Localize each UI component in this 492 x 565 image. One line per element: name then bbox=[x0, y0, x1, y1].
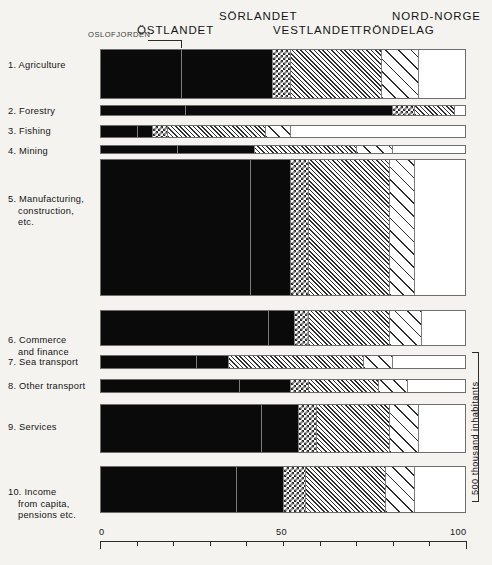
bar-segment-vestlandet bbox=[414, 106, 454, 115]
bar-segment-nordnorge bbox=[392, 146, 465, 153]
region-legend: OSLOFJORDEN ÖSTLANDET SÖRLANDET VESTLAND… bbox=[0, 0, 492, 46]
row-label: 4. Mining bbox=[8, 146, 96, 158]
bar-segment-nordnorge bbox=[414, 467, 465, 512]
bar-segment-stlandet bbox=[236, 467, 283, 512]
oslofjorden-leader-line bbox=[148, 40, 182, 41]
row-label-line: 2. Forestry bbox=[8, 106, 96, 118]
bar-segment-nordnorge bbox=[290, 126, 465, 137]
bar-segment-vestlandet bbox=[305, 467, 385, 512]
stacked-bar bbox=[100, 355, 466, 369]
region-label-ostlandet: ÖSTLANDET bbox=[137, 24, 214, 36]
scale-bracket-bottom bbox=[472, 501, 479, 502]
row-label: 1. Agriculture bbox=[8, 60, 96, 72]
x-axis-tick bbox=[393, 541, 394, 546]
scale-note-label: 500 thousand inhabitants bbox=[470, 382, 480, 495]
row-label-line: 10. Income bbox=[8, 487, 96, 499]
x-axis-tick bbox=[100, 541, 101, 549]
x-axis-tick bbox=[356, 541, 357, 546]
bar-segment-stlandet bbox=[181, 50, 272, 98]
bar-segment-stlandet bbox=[185, 106, 392, 115]
bar-segment-nordnorge bbox=[418, 50, 465, 98]
bar-segment-nordnorge bbox=[454, 106, 465, 115]
bar-segment-srlandet bbox=[392, 106, 414, 115]
stacked-bar bbox=[100, 125, 466, 138]
bar-segment-vestlandet bbox=[254, 146, 356, 153]
row-label: 2. Forestry bbox=[8, 106, 96, 118]
bar-segment-trndelag bbox=[385, 467, 414, 512]
bar-segment-srlandet bbox=[152, 126, 167, 137]
bar-segment-stlandet bbox=[239, 380, 290, 392]
row-label-line: etc. bbox=[8, 217, 96, 229]
x-axis-tick bbox=[246, 541, 247, 546]
row-label-line: 7. Sea transport bbox=[8, 357, 96, 369]
row-label: 6. Commerceand finance bbox=[8, 335, 96, 358]
x-axis-tick bbox=[320, 541, 321, 546]
stacked-bar bbox=[100, 145, 466, 154]
bar-segment-vestlandet bbox=[167, 126, 265, 137]
x-axis-tick bbox=[210, 541, 211, 546]
x-axis-label: 100 bbox=[450, 527, 467, 537]
row-label: 7. Sea transport bbox=[8, 357, 96, 369]
bar-segment-vestlandet bbox=[316, 405, 389, 452]
region-label-trondelag: TRÖNDELAG bbox=[355, 24, 435, 36]
bar-segment-trndelag bbox=[381, 50, 417, 98]
bar-segment-oslofjorden bbox=[101, 311, 268, 345]
region-label-vestlandet: VESTLANDET bbox=[273, 24, 357, 36]
x-axis-tick bbox=[173, 541, 174, 546]
bar-segment-nordnorge bbox=[392, 356, 465, 368]
x-axis-label: 50 bbox=[276, 527, 287, 537]
x-axis-label: 0 bbox=[99, 527, 105, 537]
bar-segment-trndelag bbox=[363, 356, 392, 368]
bar-segment-srlandet bbox=[294, 311, 309, 345]
bar-segment-oslofjorden bbox=[101, 106, 185, 115]
bar-segment-srlandet bbox=[272, 50, 290, 98]
bar-segment-oslofjorden bbox=[101, 356, 196, 368]
row-label-line: 8. Other transport bbox=[8, 381, 96, 393]
row-label-line: 3. Fishing bbox=[8, 126, 96, 138]
bar-segment-srlandet bbox=[290, 380, 308, 392]
scale-bracket-top bbox=[472, 352, 479, 353]
bar-segment-vestlandet bbox=[308, 311, 388, 345]
stacked-bar bbox=[100, 404, 466, 453]
bar-segment-trndelag bbox=[389, 311, 422, 345]
x-axis-tick bbox=[283, 541, 284, 546]
bar-segment-vestlandet bbox=[308, 380, 377, 392]
stacked-bar-chart: OSLOFJORDEN ÖSTLANDET SÖRLANDET VESTLAND… bbox=[0, 0, 492, 565]
row-label-line: 5. Manufacturing, bbox=[8, 194, 96, 206]
bar-segment-nordnorge bbox=[418, 405, 465, 452]
bar-segment-vestlandet bbox=[290, 50, 381, 98]
bar-segment-stlandet bbox=[137, 126, 152, 137]
row-label-line: 4. Mining bbox=[8, 146, 96, 158]
bar-segment-stlandet bbox=[196, 356, 229, 368]
bar-segment-trndelag bbox=[356, 146, 392, 153]
stacked-bar bbox=[100, 159, 466, 296]
bar-segment-oslofjorden bbox=[101, 405, 261, 452]
row-label-line: 9. Services bbox=[8, 422, 96, 434]
bar-segment-oslofjorden bbox=[101, 467, 236, 512]
bar-segment-srlandet bbox=[283, 467, 305, 512]
row-label-line: from capita, bbox=[8, 499, 96, 511]
x-axis-tick bbox=[137, 541, 138, 546]
row-label: 10. Incomefrom capita,pensions etc. bbox=[8, 487, 96, 522]
row-label: 3. Fishing bbox=[8, 126, 96, 138]
bar-segment-srlandet bbox=[298, 405, 316, 452]
stacked-bar bbox=[100, 310, 466, 346]
x-axis-tick bbox=[466, 541, 467, 549]
bar-segment-oslofjorden bbox=[101, 160, 250, 295]
bar-segment-oslofjorden bbox=[101, 126, 137, 137]
row-label-line: 1. Agriculture bbox=[8, 60, 96, 72]
bar-segment-vestlandet bbox=[308, 160, 388, 295]
bar-segment-srlandet bbox=[290, 160, 308, 295]
x-axis-tick bbox=[429, 541, 430, 546]
bar-segment-stlandet bbox=[250, 160, 290, 295]
stacked-bar bbox=[100, 49, 466, 99]
bar-segment-trndelag bbox=[265, 126, 290, 137]
bar-segment-nordnorge bbox=[407, 380, 465, 392]
bar-segment-vestlandet bbox=[228, 356, 363, 368]
bar-segment-stlandet bbox=[261, 405, 297, 452]
bar-segment-stlandet bbox=[268, 311, 293, 345]
bar-segment-nordnorge bbox=[414, 160, 465, 295]
row-label-line: 6. Commerce bbox=[8, 335, 96, 347]
row-label: 9. Services bbox=[8, 422, 96, 434]
bar-segment-trndelag bbox=[389, 405, 418, 452]
